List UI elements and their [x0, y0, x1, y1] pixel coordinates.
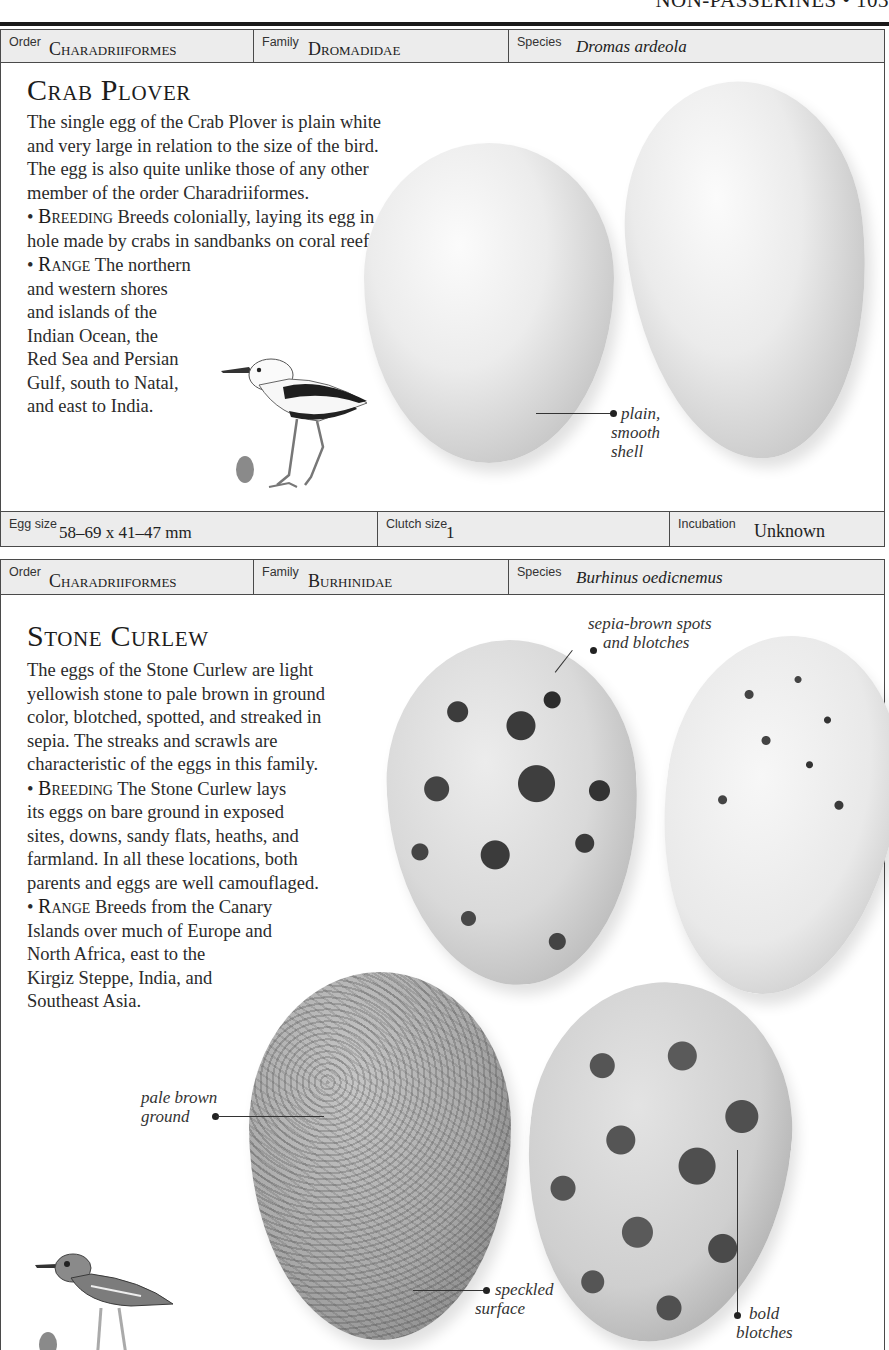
egg-photo-blotched: [379, 634, 647, 992]
species-label: Species: [517, 35, 561, 49]
callout-leader-line: [737, 1150, 738, 1315]
egg-photo-1: [364, 143, 614, 463]
incubation-value: Unknown: [754, 521, 825, 542]
breeding-paragraph: • Breeding Breeds colonially, laying its…: [27, 205, 397, 253]
egg-size-cell: Egg size 58–69 x 41–47 mm: [1, 512, 378, 546]
callout-pale-brown-ground: pale brown ground: [141, 1088, 217, 1126]
order-value: Charadriiformes: [49, 571, 177, 592]
incubation-cell: Incubation Unknown: [670, 512, 884, 546]
callout-dot: [590, 647, 597, 654]
clutch-size-value: 1: [446, 523, 455, 543]
breeding-label: Breeding: [38, 205, 113, 227]
order-label: Order: [9, 565, 41, 579]
egg-photo-speckled: [249, 972, 511, 1340]
range-paragraph: • Range Breeds from the Canary: [27, 895, 407, 920]
species-value: Dromas ardeola: [576, 37, 687, 57]
order-value: Charadriiformes: [49, 39, 177, 60]
callout-leader-line: [536, 413, 614, 414]
family-label: Family: [262, 35, 299, 49]
egg-size-value: 58–69 x 41–47 mm: [59, 523, 192, 543]
family-label: Family: [262, 565, 299, 579]
entry-description: The eggs of the Stone Curlew are light y…: [27, 659, 407, 1014]
callout-speckled-surface: speckled surface: [475, 1280, 554, 1318]
species-cell: Species Dromas ardeola: [509, 30, 884, 62]
family-cell: Family Dromadidae: [254, 30, 509, 62]
range-label: Range: [38, 895, 90, 917]
entry-panel-crab-plover: Crab Plover The single egg of the Crab P…: [0, 63, 885, 511]
order-cell: Order Charadriiformes: [1, 30, 254, 62]
callout-dot: [610, 410, 617, 417]
species-value: Burhinus oedicnemus: [576, 568, 723, 588]
clutch-size-cell: Clutch size 1: [378, 512, 670, 546]
family-value: Burhinidae: [308, 571, 392, 592]
callout-bold-blotches: bold blotches: [736, 1304, 793, 1342]
description-text: The single egg of the Crab Plover is pla…: [27, 111, 397, 205]
facts-bar-crab-plover: Egg size 58–69 x 41–47 mm Clutch size 1 …: [0, 511, 885, 547]
actual-size-egg-icon: [236, 456, 254, 483]
callout-sepia-brown-spots: sepia-brown spots and blotches: [588, 614, 712, 652]
running-head: NON-PASSERINES • 103: [655, 0, 889, 24]
callout-plain-smooth-shell: plain,smoothshell: [621, 404, 660, 461]
top-rule: [0, 22, 889, 26]
taxonomy-bar-stone-curlew: Order Charadriiformes Family Burhinidae …: [0, 559, 885, 595]
family-cell: Family Burhinidae: [254, 560, 509, 594]
clutch-size-label: Clutch size: [386, 517, 447, 531]
entry-title: Crab Plover: [27, 73, 191, 107]
entry-panel-stone-curlew: Stone Curlew The eggs of the Stone Curle…: [0, 595, 885, 1350]
order-label: Order: [9, 35, 41, 49]
egg-photo-spotted: [639, 621, 889, 1010]
callout-leader-line: [216, 1116, 324, 1117]
family-value: Dromadidae: [308, 39, 400, 60]
actual-size-egg-icon: [39, 1332, 57, 1350]
egg-size-label: Egg size: [9, 517, 57, 531]
species-cell: Species Burhinus oedicnemus: [509, 560, 884, 594]
breeding-label: Breeding: [38, 777, 113, 799]
species-label: Species: [517, 565, 561, 579]
entry-title: Stone Curlew: [27, 619, 209, 653]
incubation-label: Incubation: [678, 517, 736, 531]
range-label: Range: [38, 253, 90, 275]
order-cell: Order Charadriiformes: [1, 560, 254, 594]
breeding-paragraph: • Breeding The Stone Curlew lays: [27, 777, 407, 802]
range-paragraph: • Range The northern: [27, 253, 397, 278]
taxonomy-bar-crab-plover: Order Charadriiformes Family Dromadidae …: [0, 29, 885, 63]
